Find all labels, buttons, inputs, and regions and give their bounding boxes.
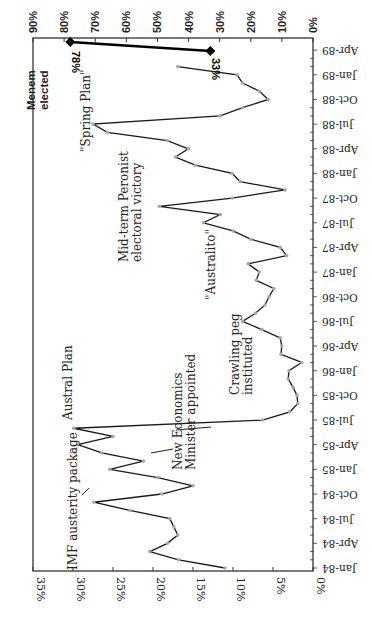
annotation-line: Austral Plan <box>61 345 75 421</box>
data-point <box>235 73 239 77</box>
data-point <box>283 188 287 192</box>
value-label: 33% <box>210 58 222 80</box>
date-label: Oct-88 <box>322 94 358 106</box>
axis-tick-label: 10% <box>234 577 247 601</box>
annotation-line: Menem <box>25 70 37 110</box>
data-point <box>300 361 304 365</box>
date-label: Jan-86 <box>322 366 357 378</box>
axis-tick-label: 30% <box>214 11 226 33</box>
data-point <box>291 385 295 389</box>
data-point <box>111 435 115 439</box>
data-point <box>230 172 234 176</box>
axis-tick-label: 70% <box>89 11 101 33</box>
axis-tick-label: 25% <box>114 577 127 601</box>
date-label: Jul-87 <box>322 218 354 230</box>
date-label: Jul-85 <box>322 415 354 427</box>
data-point <box>108 468 112 472</box>
data-point <box>176 533 180 537</box>
data-point <box>218 213 222 217</box>
data-point <box>285 254 289 258</box>
data-point <box>266 98 270 102</box>
annotation-leader <box>151 449 173 453</box>
data-point <box>254 279 258 283</box>
data-point <box>156 476 160 480</box>
data-point <box>296 402 300 406</box>
annotation: IMF austerity package <box>66 432 80 570</box>
annotation: "Australito" <box>204 229 218 300</box>
data-point <box>202 221 206 225</box>
date-label: Apr-88 <box>322 144 359 156</box>
date-label: Oct-84 <box>322 489 358 501</box>
date-label: Jan-87 <box>322 267 357 279</box>
annotation: New EconomicsMinister appointed <box>171 353 198 470</box>
data-point <box>106 131 110 135</box>
data-point <box>230 196 234 200</box>
annotation-line: Mid-term Peronist <box>117 151 131 262</box>
date-label: Oct-87 <box>322 193 358 205</box>
date-label: Jan-88 <box>322 168 357 180</box>
inflation-chart: 0%5%10%15%20%25%30%35% 0%10%20%30%40%50%… <box>0 0 372 627</box>
data-point <box>168 517 172 521</box>
data-point <box>287 369 291 373</box>
annotation-line: "Spring Plan" <box>79 69 93 152</box>
axis-tick-label: 90% <box>27 11 39 33</box>
annotation-line: Crawling peg <box>228 313 242 395</box>
data-point <box>288 410 292 414</box>
data-point <box>166 542 170 546</box>
date-label: Apr-86 <box>322 341 360 353</box>
annotation-line: New Economics <box>171 373 185 470</box>
annotation-line: IMF austerity package <box>66 432 80 570</box>
date-label: Jul-84 <box>322 514 355 526</box>
data-point <box>172 525 176 529</box>
axis-tick-label: 20% <box>245 11 257 33</box>
annotation-line: elected <box>38 70 50 110</box>
annotation: "Spring Plan" <box>79 69 93 152</box>
date-label: Jul-86 <box>322 316 355 328</box>
data-point <box>278 336 282 340</box>
inflation-line <box>74 67 302 568</box>
data-point <box>194 163 198 167</box>
date-label: Jul-88 <box>322 119 354 131</box>
date-label: Oct-86 <box>322 292 358 304</box>
data-point <box>218 114 222 118</box>
data-point <box>158 205 162 209</box>
axis-tick-label: 50% <box>151 11 163 33</box>
data-point <box>258 89 262 93</box>
annotation-line: electoral victory <box>130 163 144 262</box>
data-point <box>174 155 178 159</box>
data-point <box>142 459 146 463</box>
axis-tick-label: 35% <box>34 577 47 601</box>
date-label: Apr-89 <box>322 45 359 57</box>
data-point <box>254 311 258 315</box>
data-point <box>177 558 181 562</box>
date-label: Apr-84 <box>322 538 360 550</box>
data-point <box>241 81 245 85</box>
data-point <box>261 418 265 422</box>
diamond-marker <box>205 46 215 56</box>
data-point <box>260 328 264 332</box>
data-point <box>238 180 242 184</box>
data-point <box>223 566 227 570</box>
data-point <box>72 426 76 430</box>
date-label: Apr-87 <box>322 242 359 254</box>
data-point <box>246 262 250 266</box>
data-point <box>249 237 253 241</box>
data-point <box>176 65 180 69</box>
annotation: Mid-term Peronistelectoral victory <box>117 151 144 262</box>
inflation-series <box>72 65 304 570</box>
axis-tick-label: 30% <box>74 577 87 601</box>
axis-tick-label: 80% <box>58 11 70 33</box>
data-point <box>295 394 299 398</box>
axis-tick-label: 60% <box>120 11 132 33</box>
data-point <box>148 550 152 554</box>
axis-tick-label: 10% <box>276 11 288 33</box>
annotation-line: "Australito" <box>204 229 218 300</box>
data-point <box>92 500 96 504</box>
data-point <box>263 303 267 307</box>
primary-y-axis: 0%5%10%15%20%25%30%35% <box>33 567 327 601</box>
annotation: Austral Plan <box>61 345 75 421</box>
axis-tick-label: 40% <box>183 11 195 33</box>
data-point <box>280 344 284 348</box>
date-label: Jan-84 <box>322 563 357 575</box>
annotations: IMF austerity packageAustral PlanNew Eco… <box>25 69 255 570</box>
